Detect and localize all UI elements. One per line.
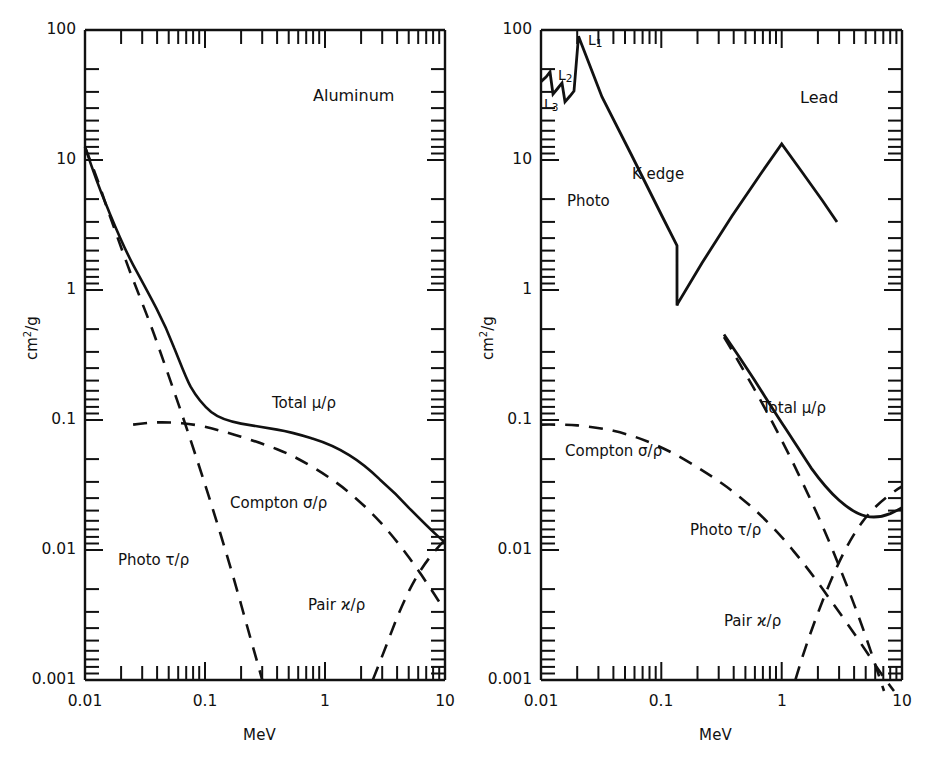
lead-label-photo-plain: Photo (567, 192, 610, 210)
lead-label-l2-sub: 2 (566, 72, 573, 84)
aluminum-curves (85, 147, 445, 680)
aluminum-ytick-1: 1 (24, 280, 76, 298)
lead-yaxis-title-exponent: 2 (478, 331, 489, 337)
curve-total-aluminum (85, 147, 445, 543)
aluminum-xtick-1: 1 (295, 692, 355, 710)
lead-xaxis-title: MeV (699, 726, 732, 744)
aluminum-label-compton: Compton σ/ρ (230, 494, 327, 512)
lead-label-total: Total μ/ρ (762, 399, 826, 417)
lead-label-l3-text: L (544, 96, 552, 112)
aluminum-plot-canvas (0, 0, 462, 759)
aluminum-label-pair: Pair ϰ/ρ (308, 596, 365, 614)
lead-x-ticks (541, 30, 902, 680)
figure-mass-attenuation-coefficients: 100 10 1 0.1 0.01 0.001 0.01 0.1 1 10 Me… (0, 0, 925, 759)
aluminum-x-ticks (85, 30, 445, 680)
lead-material-label: Lead (800, 88, 838, 107)
aluminum-yaxis-title-prefix: cm (23, 337, 41, 360)
curve-total-lead (724, 335, 902, 518)
lead-ytick-0.001: 0.001 (460, 670, 532, 688)
curve-photo-aluminum (85, 147, 262, 680)
lead-plot-canvas (462, 0, 924, 759)
lead-y-ticks (541, 30, 902, 680)
lead-label-l1-text: L (588, 32, 596, 48)
aluminum-axes-frame (85, 30, 445, 680)
aluminum-xtick-0.1: 0.1 (170, 692, 240, 710)
lead-yaxis-title: cm2/g (478, 316, 497, 360)
chart-panel-lead: 100 10 1 0.1 0.01 0.001 0.01 0.1 1 10 Me… (462, 0, 924, 759)
aluminum-label-photo: Photo τ/ρ (118, 551, 189, 569)
lead-xtick-10: 10 (869, 692, 925, 710)
lead-label-pair: Pair ϰ/ρ (724, 612, 781, 630)
lead-ytick-0.01: 0.01 (470, 540, 532, 558)
aluminum-xaxis-title: MeV (243, 726, 276, 744)
curve-compton-aluminum (133, 422, 445, 610)
aluminum-ytick-0.1: 0.1 (24, 410, 76, 428)
lead-label-photo: Photo τ/ρ (690, 521, 761, 539)
lead-label-l2: L2 (558, 67, 573, 84)
aluminum-xtick-0.01: 0.01 (45, 692, 125, 710)
lead-label-l1-sub: 1 (596, 37, 603, 49)
lead-yaxis-title-suffix: /g (479, 316, 497, 331)
lead-curves (541, 36, 902, 691)
aluminum-ytick-100: 100 (24, 20, 76, 38)
lead-xtick-0.01: 0.01 (501, 692, 581, 710)
aluminum-ytick-0.001: 0.001 (4, 670, 76, 688)
lead-axes-frame (541, 30, 902, 680)
aluminum-material-label: Aluminum (313, 86, 394, 105)
lead-ytick-1: 1 (480, 280, 532, 298)
lead-label-l2-text: L (558, 67, 566, 83)
aluminum-ytick-0.01: 0.01 (14, 540, 76, 558)
lead-xtick-1: 1 (752, 692, 812, 710)
lead-label-l3: L3 (544, 96, 559, 113)
lead-ytick-0.1: 0.1 (480, 410, 532, 428)
aluminum-y-ticks (85, 30, 445, 680)
lead-label-l3-sub: 3 (552, 101, 559, 113)
lead-yaxis-title-prefix: cm (479, 337, 497, 360)
chart-panel-aluminum: 100 10 1 0.1 0.01 0.001 0.01 0.1 1 10 Me… (0, 0, 462, 759)
lead-ytick-100: 100 (480, 20, 532, 38)
curve-photo-edges-lead (541, 36, 837, 305)
aluminum-ytick-10: 10 (24, 150, 76, 168)
aluminum-yaxis-title-suffix: /g (23, 316, 41, 331)
lead-xtick-0.1: 0.1 (626, 692, 696, 710)
lead-label-compton: Compton σ/ρ (565, 442, 662, 460)
lead-label-k-edge: K edge (632, 165, 684, 183)
aluminum-yaxis-title-exponent: 2 (22, 331, 33, 337)
lead-label-l1: L1 (588, 32, 603, 49)
lead-ytick-10: 10 (480, 150, 532, 168)
aluminum-yaxis-title: cm2/g (22, 316, 41, 360)
aluminum-label-total: Total μ/ρ (272, 394, 336, 412)
